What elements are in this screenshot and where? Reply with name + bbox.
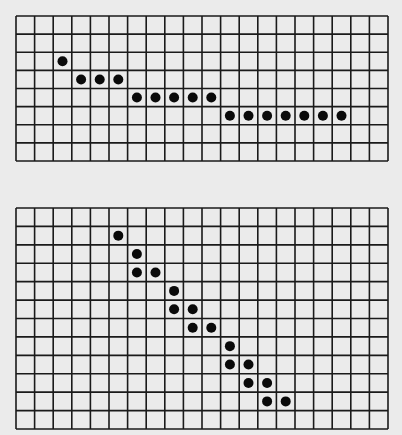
- grid-dot: [76, 74, 86, 84]
- grid-dot: [95, 74, 105, 84]
- grid-dot: [188, 323, 198, 333]
- grid-dot: [281, 111, 291, 121]
- grid-dot: [188, 304, 198, 314]
- grid-dot: [262, 396, 272, 406]
- grid-dot: [113, 231, 123, 241]
- grid-dot: [244, 111, 254, 121]
- grid-dot: [262, 378, 272, 388]
- grid-dot: [262, 111, 272, 121]
- grid-dot: [169, 286, 179, 296]
- grid-dot: [244, 378, 254, 388]
- grid-dot: [169, 93, 179, 103]
- grid-dot: [188, 93, 198, 103]
- grid-dot: [206, 93, 216, 103]
- grid-dot: [318, 111, 328, 121]
- grid-dot: [169, 304, 179, 314]
- grid-dot: [113, 74, 123, 84]
- bottom-grid: [15, 207, 389, 430]
- grid-dot: [281, 396, 291, 406]
- grid-dot: [151, 93, 161, 103]
- grid-dot: [132, 267, 142, 277]
- grid-dot: [58, 56, 68, 66]
- grid-dot: [132, 249, 142, 259]
- grid-dot: [151, 267, 161, 277]
- grid-dot: [299, 111, 309, 121]
- top-grid: [15, 15, 389, 162]
- grid-dot: [225, 360, 235, 370]
- grid-dot: [244, 360, 254, 370]
- grid-dot: [337, 111, 347, 121]
- grid-dot: [206, 323, 216, 333]
- grid-dot: [225, 341, 235, 351]
- grid-dot: [225, 111, 235, 121]
- grid-dot: [132, 93, 142, 103]
